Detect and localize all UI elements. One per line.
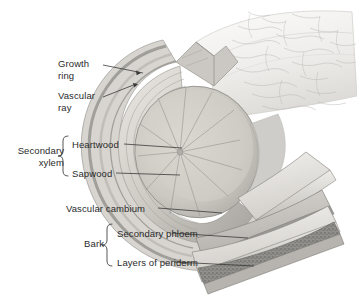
label-secondary-phloem: Secondary phloem bbox=[117, 228, 198, 240]
label-sapwood: Sapwood bbox=[72, 168, 112, 180]
label-heartwood: Heartwood bbox=[72, 139, 119, 151]
label-secondary-xylem: Secondary xylem bbox=[4, 145, 64, 168]
label-layers-of-periderm: Layers of periderm bbox=[117, 257, 198, 269]
label-vascular-cambium: Vascular cambium bbox=[66, 203, 145, 215]
label-growth-ring: Growth ring bbox=[58, 58, 89, 81]
pith-center bbox=[177, 149, 183, 155]
label-bark: Bark bbox=[56, 238, 104, 250]
label-vascular-ray: Vascular ray bbox=[58, 90, 95, 113]
